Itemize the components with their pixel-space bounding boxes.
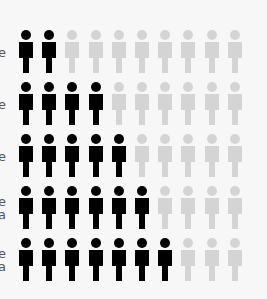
person-legs [162,161,168,177]
person-icon [19,238,33,281]
person-head [114,238,124,248]
person-torso [65,146,79,162]
person-torso [205,146,219,162]
person-legs [116,213,122,229]
person-legs [185,265,191,281]
pictograph-row: e [0,82,267,126]
person-torso [19,146,33,162]
person-legs [23,109,29,125]
person-torso [181,42,195,58]
person-torso [135,250,149,266]
person-icon [205,82,219,125]
person-legs [232,57,238,73]
person-icon [158,30,172,73]
person-torso [158,198,172,214]
row-label-line: e [0,46,6,59]
person-head [207,186,217,196]
person-icon [42,30,56,73]
person-torso [89,94,103,110]
person-head [21,82,31,92]
person-head [207,30,217,40]
person-torso [205,94,219,110]
pictograph-row: e [0,30,267,74]
person-head [114,134,124,144]
person-legs [209,161,215,177]
person-legs [185,213,191,229]
person-head [67,30,77,40]
person-torso [42,250,56,266]
person-head [160,134,170,144]
person-torso [19,250,33,266]
person-head [230,82,240,92]
person-head [230,186,240,196]
person-torso [65,198,79,214]
person-legs [23,265,29,281]
person-icon [89,30,103,73]
person-head [21,186,31,196]
person-head [91,186,101,196]
person-icon [228,238,242,281]
person-icon [205,30,219,73]
person-legs [93,213,99,229]
person-head [44,30,54,40]
person-torso [181,146,195,162]
person-icon [228,134,242,177]
person-icon [65,30,79,73]
person-head [67,134,77,144]
person-head [207,82,217,92]
person-icon [205,134,219,177]
person-head [91,134,101,144]
person-icon [65,238,79,281]
person-head [21,238,31,248]
person-head [44,134,54,144]
person-icon [158,186,172,229]
person-head [160,82,170,92]
person-icon [158,134,172,177]
person-head [207,238,217,248]
person-icon [19,30,33,73]
person-icon [19,186,33,229]
person-legs [69,109,75,125]
person-torso [135,146,149,162]
person-head [230,134,240,144]
person-torso [112,94,126,110]
person-icon [228,30,242,73]
person-head [137,134,147,144]
person-legs [69,265,75,281]
person-torso [112,42,126,58]
person-legs [46,265,52,281]
person-icon [158,82,172,125]
person-legs [232,213,238,229]
person-legs [162,265,168,281]
person-legs [185,161,191,177]
person-torso [19,42,33,58]
person-head [114,82,124,92]
person-icon [42,82,56,125]
person-legs [116,109,122,125]
person-torso [228,42,242,58]
person-torso [112,198,126,214]
person-head [160,238,170,248]
person-icon [112,238,126,281]
person-torso [158,250,172,266]
person-head [91,238,101,248]
person-icon [135,82,149,125]
person-torso [158,94,172,110]
person-legs [232,265,238,281]
person-icon [158,238,172,281]
person-icon [228,186,242,229]
person-torso [158,146,172,162]
person-head [91,82,101,92]
person-head [183,30,193,40]
person-icon [135,238,149,281]
person-legs [93,109,99,125]
person-legs [23,57,29,73]
person-legs [69,57,75,73]
person-head [44,186,54,196]
person-head [160,30,170,40]
person-head [230,238,240,248]
person-legs [139,161,145,177]
person-head [67,82,77,92]
person-head [114,186,124,196]
person-legs [69,161,75,177]
